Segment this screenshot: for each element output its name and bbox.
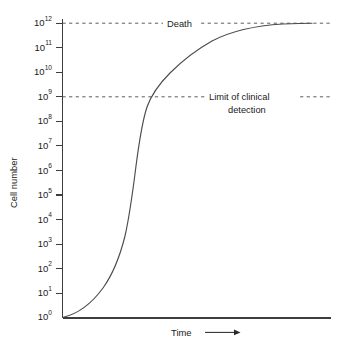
growth-curve-chart: 1012 1011 1010 109 108 107 106 105 104 1… xyxy=(0,0,337,348)
x-axis-title: Time xyxy=(171,327,191,338)
tick-label-10e2: 102 xyxy=(38,260,53,273)
tick-label-10e10: 1010 xyxy=(34,64,52,77)
y-axis-tick-labels: 1012 1011 1010 109 108 107 106 105 104 1… xyxy=(34,14,52,321)
detection-annotation-line-1: Limit of clinical xyxy=(209,92,269,102)
y-axis-title: Cell number xyxy=(8,157,19,208)
time-arrow-icon xyxy=(205,330,241,336)
tick-label-10e11: 1011 xyxy=(35,39,53,52)
tick-label-10e5: 105 xyxy=(38,186,53,199)
tick-label-10e1: 101 xyxy=(38,284,53,297)
y-axis-ticks xyxy=(56,23,63,293)
tumour-growth-curve xyxy=(63,23,313,317)
tick-label-10e3: 103 xyxy=(38,235,53,248)
tick-label-10e8: 108 xyxy=(38,113,53,126)
tick-label-10e4: 104 xyxy=(38,211,53,224)
tick-label-10e0: 100 xyxy=(38,308,53,321)
tick-label-10e9: 109 xyxy=(38,88,53,101)
detection-annotation-line-2: detection xyxy=(228,105,266,115)
tick-label-10e7: 107 xyxy=(38,137,53,150)
tick-label-10e12: 1012 xyxy=(34,14,52,27)
tick-label-10e6: 106 xyxy=(38,162,53,175)
tumour-growth-figure: 1012 1011 1010 109 108 107 106 105 104 1… xyxy=(0,0,337,348)
death-annotation: Death xyxy=(167,19,192,29)
